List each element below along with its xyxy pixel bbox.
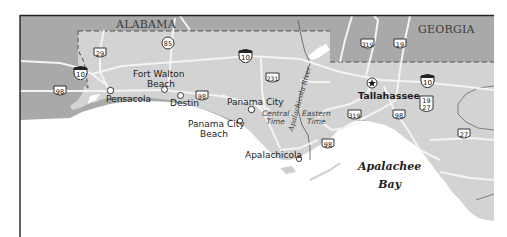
interstate-10-shield-west: 10 (73, 65, 88, 80)
timezone-label-central: Central Time (262, 110, 289, 127)
us-98-shield-west: 98 (53, 85, 67, 97)
svg-text:19: 19 (396, 41, 404, 49)
us-19-shield-north: 19 (393, 38, 407, 50)
timezone-label-eastern: Eastern Time (302, 110, 331, 127)
us-29-shield: 29 (93, 47, 107, 59)
svg-text:27: 27 (422, 104, 430, 112)
us-98-shield-east: 98 (392, 109, 406, 121)
timezone-central-line2: Time (262, 118, 289, 126)
sr-85-shield: 85 (161, 36, 175, 50)
svg-text:98: 98 (56, 88, 64, 96)
city-label-panama-city-beach-line2: Beach (200, 130, 228, 139)
us-98-shield-apalachicola: 98 (321, 138, 335, 150)
svg-text:27: 27 (460, 131, 468, 139)
capital-star-icon (366, 77, 378, 89)
us-319-shield-north: 319 (360, 38, 375, 50)
us-27-shield: 27 (457, 128, 471, 140)
bay-label-line2: Bay (358, 176, 421, 194)
us-231-shield: 231 (265, 72, 280, 84)
city-label-fort-walton-beach-line1: Fort Walton (133, 70, 185, 79)
timezone-eastern-line2: Time (302, 118, 331, 126)
city-label-panama-city-beach-line1: Panama City (188, 120, 245, 129)
interstate-10-shield-east: 10 (420, 73, 435, 88)
bay-label-line1: Apalachee (358, 158, 421, 176)
interstate-10-east-number: 10 (423, 79, 432, 87)
bay-label-apalachee: Apalachee Bay (358, 158, 421, 193)
us-19-27-shield: 19 27 (419, 95, 434, 114)
state-label-georgia: GEORGIA (418, 24, 475, 35)
us-319-shield-south: 319 (347, 109, 362, 121)
svg-text:98: 98 (395, 112, 403, 120)
interstate-10-west-number: 10 (76, 71, 85, 79)
interstate-10-central-number: 10 (241, 54, 250, 62)
interstate-10-shield-central: 10 (238, 48, 253, 63)
svg-text:29: 29 (96, 50, 104, 58)
svg-text:231: 231 (267, 75, 279, 82)
florida-central-strip (78, 31, 330, 80)
svg-text:319: 319 (362, 41, 374, 48)
city-label-pensacola: Pensacola (106, 95, 151, 104)
city-label-fort-walton-beach-line2: Beach (147, 80, 175, 89)
svg-text:98: 98 (324, 141, 332, 149)
city-label-apalachicola: Apalachicola (245, 151, 302, 160)
svg-text:319: 319 (349, 112, 361, 119)
svg-text:85: 85 (164, 40, 172, 48)
city-label-panama-city: Panama City (227, 98, 284, 107)
city-label-tallahassee: Tallahassee (358, 91, 420, 101)
state-label-alabama: ALABAMA (116, 19, 176, 30)
svg-text:98: 98 (198, 93, 206, 101)
us-98-shield-destin: 98 (195, 90, 209, 102)
